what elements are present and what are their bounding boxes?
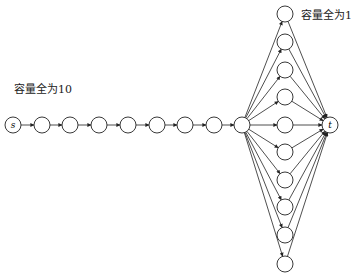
fan-node bbox=[277, 144, 293, 160]
fan-node bbox=[277, 117, 293, 133]
fan-capacity-label: 容量全为1 bbox=[301, 6, 351, 22]
hub-to-fan-edge bbox=[246, 132, 282, 200]
fan-to-sink-edge bbox=[289, 132, 326, 200]
source-node-label: s bbox=[11, 120, 16, 130]
fan-node bbox=[277, 62, 293, 78]
chain-node bbox=[120, 117, 136, 133]
hub-to-fan-edge bbox=[246, 49, 282, 118]
fan-node bbox=[277, 89, 293, 105]
fan-node bbox=[277, 172, 293, 188]
chain-node bbox=[62, 117, 78, 133]
hub-to-fan-edge bbox=[249, 129, 278, 147]
hub-node bbox=[234, 117, 250, 133]
fan-to-sink-edge bbox=[290, 131, 325, 174]
fan-node bbox=[277, 199, 293, 215]
hub-to-fan-edge bbox=[245, 21, 282, 117]
fan-node bbox=[277, 6, 293, 22]
chain-node bbox=[149, 117, 165, 133]
flow-network-diagram: st bbox=[0, 0, 351, 280]
hub-to-fan-edge bbox=[247, 131, 280, 173]
chain-capacity-label: 容量全为10 bbox=[14, 80, 72, 96]
source-node: s bbox=[5, 117, 21, 133]
fan-to-sink-edge bbox=[290, 76, 325, 119]
chain-node bbox=[206, 117, 222, 133]
fan-node bbox=[277, 34, 293, 50]
chain-node bbox=[177, 117, 193, 133]
fan-node bbox=[277, 227, 293, 243]
fan-to-sink-edge bbox=[288, 21, 327, 117]
chain-node bbox=[34, 117, 50, 133]
fan-node bbox=[277, 256, 293, 272]
sink-node: t bbox=[322, 117, 338, 133]
fan-to-sink-edge bbox=[289, 49, 326, 118]
fan-to-sink-edge bbox=[287, 133, 327, 257]
chain-node bbox=[91, 117, 107, 133]
sink-node-label: t bbox=[328, 120, 332, 130]
